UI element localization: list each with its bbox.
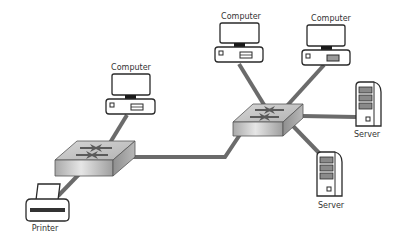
printer-label: Printer [32, 224, 59, 233]
network-diagram: Computer Computer Computer [0, 0, 398, 237]
computer-2-label: Computer [221, 12, 261, 21]
computer-3-label: Computer [311, 14, 351, 23]
desktop-computer-icon [106, 74, 155, 114]
tower-server-icon [317, 152, 342, 196]
switch-left [55, 141, 135, 176]
desktop-computer-icon [215, 23, 263, 62]
computer-2: Computer [215, 12, 263, 62]
tower-server-icon [356, 82, 381, 126]
cable-server-1-to-right-switch [302, 116, 356, 117]
cable-server-2-to-right-switch [293, 126, 322, 156]
cable-left-switch-to-right-switch [128, 127, 245, 157]
computer-3: Computer [302, 14, 352, 65]
server-2: Server [317, 152, 345, 210]
cable-computer-2-to-right-switch [239, 64, 266, 108]
server-1-label: Server [354, 130, 381, 139]
network-switch-icon [55, 141, 135, 176]
network-switch-icon [233, 104, 303, 136]
computer-1-label: Computer [111, 63, 151, 72]
server-1: Server [354, 82, 381, 139]
desktop-computer-icon [302, 25, 350, 65]
computer-1: Computer [106, 63, 155, 114]
server-2-label: Server [318, 201, 345, 210]
cable-computer-3-to-right-switch [285, 65, 324, 108]
switch-right [233, 104, 303, 136]
